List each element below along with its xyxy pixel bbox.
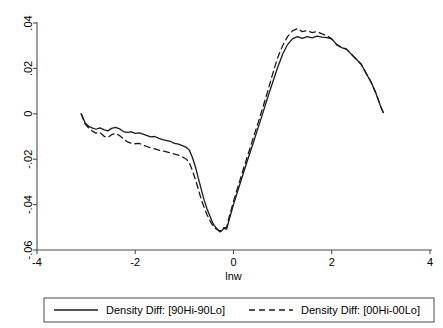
y-axis-tick-label: .02 [22, 61, 34, 76]
x-axis-tick-label: 4 [427, 256, 433, 268]
chart-background [0, 0, 443, 328]
x-axis-tick-label: -2 [130, 256, 140, 268]
chart-legend[interactable]: Density Diff: [90Hi-90Lo]Density Diff: [… [44, 298, 434, 322]
y-axis-tick-label: 0 [22, 111, 34, 117]
y-axis-tick-label: -.02 [22, 150, 34, 169]
y-axis-tick-label: -.04 [22, 195, 34, 214]
density-difference-line-chart: .04.020-.02-.04-.06 -4-2024 lnw Density … [0, 0, 443, 328]
x-axis-title: lnw [225, 270, 242, 282]
chart-figure: .04.020-.02-.04-.06 -4-2024 lnw Density … [0, 0, 443, 328]
legend-label[interactable]: Density Diff: [00Hi-00Lo] [301, 304, 420, 316]
x-axis-tick-label: -4 [32, 256, 42, 268]
x-axis-tick-label: 2 [329, 256, 335, 268]
x-axis-title-text: lnw [225, 270, 242, 282]
legend-label[interactable]: Density Diff: [90Hi-90Lo] [106, 304, 225, 316]
y-axis-tick-label: .04 [22, 15, 34, 30]
x-axis-tick-label: 0 [230, 256, 236, 268]
